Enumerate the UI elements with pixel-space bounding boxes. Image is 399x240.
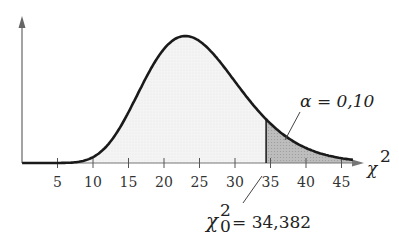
x-tick-label: 30 bbox=[226, 174, 244, 190]
x-axis-label-sup: 2 bbox=[380, 146, 391, 166]
x-tick-label: 35 bbox=[262, 174, 280, 190]
critical-leader-line bbox=[243, 176, 262, 203]
alpha-leader-line bbox=[285, 112, 300, 140]
critical-sub: 0 bbox=[220, 216, 231, 236]
critical-value-text: = 34,382 bbox=[232, 212, 311, 232]
x-tick-label: 10 bbox=[84, 174, 102, 190]
x-tick-label: 40 bbox=[297, 174, 315, 190]
rejection-region-area bbox=[266, 119, 354, 163]
x-tick-label: 45 bbox=[333, 174, 351, 190]
x-tick-label: 15 bbox=[120, 174, 138, 190]
x-tick-label: 25 bbox=[191, 174, 209, 190]
distribution-body-area bbox=[22, 36, 266, 163]
y-axis-arrow-icon bbox=[19, 16, 26, 28]
x-axis-arrow-icon bbox=[352, 160, 364, 167]
critical-value-annotation: χ bbox=[204, 209, 220, 233]
x-tick-label: 5 bbox=[53, 174, 62, 190]
x-tick-label: 20 bbox=[155, 174, 173, 190]
x-axis-label: χ bbox=[366, 158, 379, 178]
chi-square-chart: 51015202530354045 α = 0,10 χ 2 0 = 34,38… bbox=[0, 0, 399, 240]
alpha-annotation: α = 0,10 bbox=[300, 91, 375, 111]
